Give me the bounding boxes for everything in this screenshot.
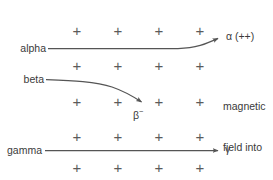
field-plus-icon: +: [193, 160, 207, 174]
gamma-track-label: gamma: [0, 144, 42, 156]
beta-track-label: beta: [0, 73, 44, 85]
field-plus-icon: +: [152, 129, 166, 143]
field-plus-icon: +: [70, 58, 84, 72]
physics-diagram: + + + + + + + + + + + + + + + + + + + + …: [0, 0, 273, 180]
alpha-track-label: alpha: [0, 42, 46, 54]
field-plus-icon: +: [152, 94, 166, 108]
field-plus-icon: +: [111, 23, 125, 37]
alpha-path-arrow: [48, 38, 218, 48]
magnetic-field-note: magnetic field into page: [223, 72, 273, 180]
magnetic-field-note-line-1: magnetic: [223, 100, 273, 114]
beta-symbol-superscript: −: [139, 107, 143, 116]
field-plus-icon: +: [193, 129, 207, 143]
magnetic-field-note-line-2: field into: [223, 141, 273, 155]
field-plus-icon: +: [193, 58, 207, 72]
field-plus-icon: +: [70, 160, 84, 174]
field-plus-icon: +: [111, 94, 125, 108]
field-plus-icon: +: [111, 58, 125, 72]
field-plus-icon: +: [70, 23, 84, 37]
beta-path-arrow: [46, 80, 142, 103]
beta-particle-symbol: β−: [133, 108, 143, 121]
field-plus-icon: +: [152, 23, 166, 37]
field-plus-icon: +: [111, 129, 125, 143]
alpha-particle-symbol: α (++): [226, 30, 254, 42]
field-plus-icon: +: [111, 160, 125, 174]
field-plus-icon: +: [152, 160, 166, 174]
field-plus-icon: +: [70, 129, 84, 143]
field-plus-icon: +: [193, 23, 207, 37]
field-plus-icon: +: [152, 58, 166, 72]
field-plus-icon: +: [193, 94, 207, 108]
field-plus-icon: +: [70, 94, 84, 108]
